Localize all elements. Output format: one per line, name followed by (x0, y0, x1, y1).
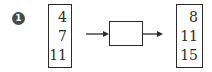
output-value: 15 (180, 48, 198, 62)
output-value: 11 (180, 29, 198, 43)
output-column-box: 8 11 15 (176, 4, 203, 68)
arrow-input-to-function (86, 31, 109, 37)
arrow-function-to-output (143, 31, 163, 37)
output-value: 8 (189, 10, 198, 24)
function-box (109, 21, 143, 46)
